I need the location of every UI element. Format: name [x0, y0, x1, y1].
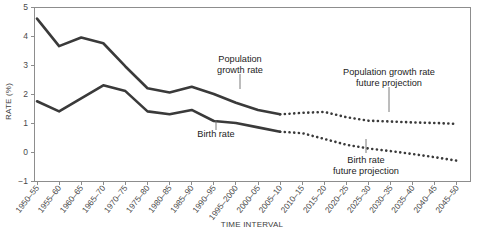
annotation-label-line2: future projection [333, 166, 399, 176]
y-tick-label: −1 [18, 176, 28, 186]
y-tick-label: 0 [23, 147, 28, 157]
annotation-label-line1: Birth rate [197, 129, 234, 139]
y-tick-label: 5 [23, 2, 28, 12]
annotation-label-line2: growth rate [217, 65, 263, 75]
annotation-label-line1: Population [218, 54, 261, 64]
annotation-label-line2: future projection [356, 78, 422, 88]
chart-figure: −1012345 1950–551955–601960–651965–70197… [0, 0, 489, 229]
y-tick-label: 3 [23, 60, 28, 70]
y-axis-title: RATE (%) [4, 83, 13, 120]
y-tick-label: 1 [23, 118, 28, 128]
annotation-label-line1: Population growth rate [343, 67, 435, 77]
y-tick-label: 4 [23, 31, 28, 41]
y-tick-label: 2 [23, 89, 28, 99]
population-rate-line-chart: −1012345 1950–551955–601960–651965–70197… [0, 0, 489, 229]
x-axis-title: TIME INTERVAL [221, 220, 284, 229]
annotation-label-line1: Birth rate [347, 155, 384, 165]
